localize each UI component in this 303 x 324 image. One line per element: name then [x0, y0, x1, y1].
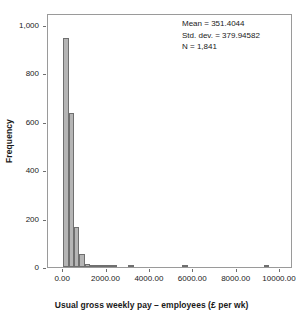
x-axis-title: Usual gross weekly pay – employees (£ pe…	[0, 300, 303, 310]
histogram-figure: Frequency 02004006008001,000 0.002000.00…	[0, 0, 303, 324]
x-axis-tick-mark	[149, 269, 150, 272]
histogram-bar	[264, 265, 269, 267]
bars-container	[48, 15, 291, 267]
stat-n: N = 1,841	[182, 41, 260, 53]
y-axis-tick-mark	[43, 171, 46, 172]
y-axis-tick-mark	[43, 74, 46, 75]
stat-std-dev: Std. dev. = 379.94582	[182, 30, 260, 42]
x-axis-title-label: Usual gross weekly pay – employees (£ pe…	[55, 300, 249, 310]
x-axis-tick-label: 10000.00	[249, 274, 303, 284]
stat-mean: Mean = 351.4044	[182, 18, 260, 30]
x-axis-tick-mark	[62, 269, 63, 272]
x-axis-tick-mark	[279, 269, 280, 272]
x-axis-tick-mark	[106, 269, 107, 272]
y-axis-tick-label: 200	[5, 215, 39, 225]
y-axis-tick-mark	[43, 268, 46, 269]
y-axis-tick-label: 800	[5, 69, 39, 79]
y-axis-tick-mark	[43, 26, 46, 27]
y-axis-tick-label: 0	[5, 263, 39, 273]
y-axis-tick-label: 1,000	[5, 21, 39, 31]
x-axis-tick-mark	[236, 269, 237, 272]
y-axis-tick-label: 600	[5, 118, 39, 128]
histogram-bar	[182, 265, 187, 267]
y-axis-tick-mark	[43, 123, 46, 124]
histogram-bar	[128, 265, 133, 267]
x-axis-tick-mark	[192, 269, 193, 272]
statistics-annotation: Mean = 351.4044 Std. dev. = 379.94582 N …	[182, 18, 260, 53]
y-axis-title: Frequency	[2, 14, 16, 268]
histogram-bar	[112, 265, 117, 267]
y-axis-tick-mark	[43, 220, 46, 221]
y-axis-tick-label: 400	[5, 166, 39, 176]
